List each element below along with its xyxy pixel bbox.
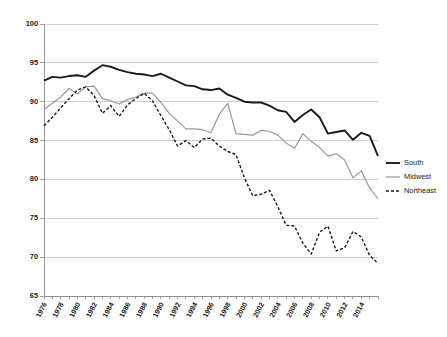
y-tick-label-65: 65	[30, 291, 38, 300]
y-tick-label-70: 70	[30, 252, 38, 261]
chart-background	[0, 0, 447, 337]
legend-label-south[interactable]: South	[404, 158, 423, 167]
line-chart: 10095908580757065 1976197819801982198419…	[0, 0, 447, 337]
y-tick-label-100: 100	[26, 19, 38, 28]
y-tick-label-90: 90	[30, 97, 38, 106]
y-tick-label-95: 95	[30, 58, 38, 67]
x-axis-tickmarks	[44, 296, 378, 299]
chart-plot-area: 10095908580757065 1976197819801982198419…	[0, 0, 447, 337]
legend-label-northeast[interactable]: Northeast	[404, 186, 436, 195]
legend-label-midwest[interactable]: Midwest	[404, 172, 431, 181]
y-tick-label-80: 80	[30, 174, 38, 183]
y-tick-label-85: 85	[30, 136, 38, 145]
y-tick-label-75: 75	[30, 213, 38, 222]
